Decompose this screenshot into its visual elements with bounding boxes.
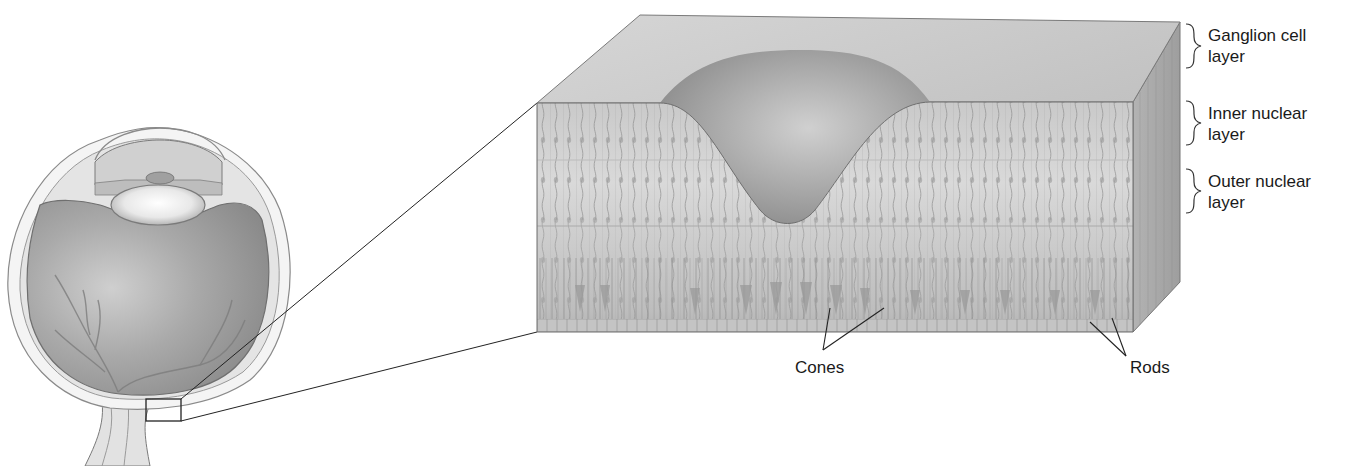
label-cones: Cones [795,357,844,378]
label-rods: Rods [1130,357,1170,378]
brace-outer-nuclear-icon [1186,169,1201,213]
label-inner-line1: Inner nuclear [1208,103,1348,124]
retina-block [537,15,1180,335]
label-ganglion-line2: layer [1208,46,1348,67]
lens [111,185,205,225]
label-ganglion-line1: Ganglion cell [1208,25,1348,46]
label-inner-line2: layer [1208,124,1348,145]
label-outer-line2: layer [1208,192,1348,213]
label-outer-nuclear-layer: Outer nuclear layer [1208,171,1348,213]
label-ganglion-cell-layer: Ganglion cell layer [1208,25,1348,67]
eyeball-illustration [8,128,290,466]
figure-stage: Ganglion cell layer Inner nuclear layer … [0,0,1348,466]
figure-svg [0,0,1348,466]
label-inner-nuclear-layer: Inner nuclear layer [1208,103,1348,145]
brace-ganglion-icon [1186,24,1201,68]
brace-inner-nuclear-icon [1186,101,1201,145]
label-outer-line1: Outer nuclear [1208,171,1348,192]
